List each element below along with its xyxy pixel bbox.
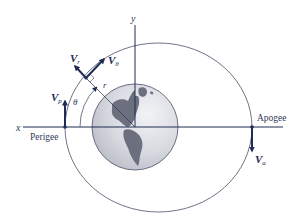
vr-label: Vr xyxy=(70,52,80,66)
perigee-label: Perigee xyxy=(30,132,59,142)
x-axis-label: x xyxy=(15,122,21,133)
vr-arrow xyxy=(75,66,86,78)
radius-label: r xyxy=(103,80,107,90)
vtheta-label: Vθ xyxy=(108,54,119,68)
theta-label: θ xyxy=(73,97,78,107)
y-axis-label: y xyxy=(130,13,136,24)
vp-label: Vp xyxy=(51,91,62,105)
right-angle-marker xyxy=(90,74,94,82)
orbit-diagram: x y r θ Vr Vθ Vp Perigee Va Apogee xyxy=(0,0,303,221)
va-label: Va xyxy=(255,153,266,167)
apogee-label: Apogee xyxy=(257,113,287,123)
vtheta-arrow xyxy=(86,59,104,78)
